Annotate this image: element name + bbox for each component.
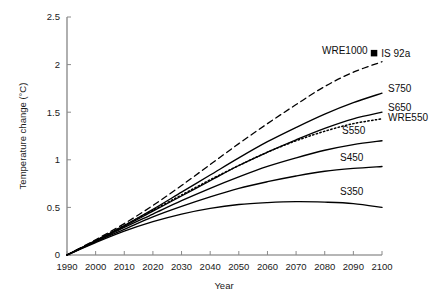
temperature-projection-chart: 00.511.522.5 Temperature change (°C) 199… <box>0 0 440 301</box>
y-axis: 00.511.522.5 Temperature change (°C) <box>17 11 71 260</box>
series-markers: IS 92a <box>371 48 411 59</box>
x-tick-label: 1990 <box>56 261 77 272</box>
series-label-s750: S750 <box>388 83 412 94</box>
x-tick-label: 2020 <box>142 261 163 272</box>
series-curve-wre1000 <box>67 62 382 255</box>
x-tick-label: 2080 <box>314 261 335 272</box>
x-tick-label: 2060 <box>257 261 278 272</box>
series-label-s550: S550 <box>342 125 366 136</box>
series-labels: WRE1000S750S650WRE550S550S450S350 <box>322 45 428 198</box>
y-tick-label: 2.5 <box>47 11 60 22</box>
x-tick-label: 2010 <box>114 261 135 272</box>
series-label-wre550: WRE550 <box>388 112 428 123</box>
marker-is-92a <box>371 50 378 57</box>
y-tick-label: 0.5 <box>47 202 60 213</box>
series-label-s450: S450 <box>340 152 364 163</box>
y-tick-label: 1 <box>55 154 60 165</box>
y-axis-ticks <box>67 17 71 255</box>
series-curve-s350 <box>67 202 382 255</box>
series-label-s350: S350 <box>340 186 364 197</box>
y-axis-title: Temperature change (°C) <box>17 83 28 190</box>
chart-container: 00.511.522.5 Temperature change (°C) 199… <box>0 0 440 301</box>
y-tick-label: 2 <box>55 59 60 70</box>
x-axis: 1990200020102020203020402050206020702080… <box>56 251 392 291</box>
series-curve-s450 <box>67 166 382 255</box>
x-tick-label: 2100 <box>371 261 392 272</box>
series-curve-s550 <box>67 141 382 255</box>
x-axis-tick-labels: 1990200020102020203020402050206020702080… <box>56 261 392 272</box>
marker-label-is-92a: IS 92a <box>381 48 410 59</box>
series-curves <box>67 62 382 255</box>
x-tick-label: 2070 <box>286 261 307 272</box>
x-tick-label: 2050 <box>228 261 249 272</box>
x-axis-ticks <box>67 251 382 255</box>
x-tick-label: 2000 <box>85 261 106 272</box>
y-tick-label: 0 <box>55 249 60 260</box>
x-axis-title: Year <box>214 280 233 291</box>
x-tick-label: 2030 <box>171 261 192 272</box>
y-axis-tick-labels: 00.511.522.5 <box>47 11 60 260</box>
y-tick-label: 1.5 <box>47 107 60 118</box>
x-tick-label: 2040 <box>200 261 221 272</box>
x-tick-label: 2090 <box>343 261 364 272</box>
series-label-wre1000: WRE1000 <box>322 45 368 56</box>
